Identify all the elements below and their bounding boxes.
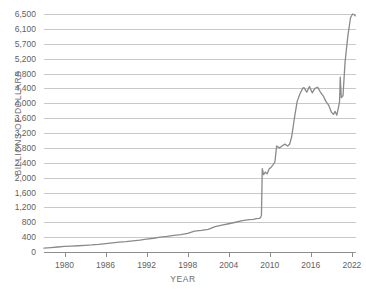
x-tick-label-2016: 2016	[301, 260, 320, 270]
x-tick-label-1998: 1998	[178, 260, 197, 270]
x-tick-1998	[188, 252, 189, 257]
x-tick-label-2022: 2022	[342, 260, 361, 270]
x-tick-label-1980: 1980	[55, 260, 74, 270]
y-tick-label-4400: 4,400	[0, 83, 36, 93]
x-tick-2004	[229, 252, 230, 257]
y-tick-label-400: 400	[0, 232, 36, 242]
plot-area: 04008001,2001,6002,0002,4002,8003,2003,6…	[44, 14, 356, 252]
x-tick-1980	[65, 252, 66, 257]
series-path-total-assets	[44, 14, 355, 248]
y-tick-label-3200: 3,200	[0, 128, 36, 138]
y-tick-label-0: 0	[0, 247, 36, 257]
chart-container: BILLIONS OF DOLLARS 04008001,2001,6002,0…	[0, 0, 366, 292]
y-tick-label-800: 800	[0, 217, 36, 227]
x-tick-label-2004: 2004	[219, 260, 238, 270]
x-tick-2010	[270, 252, 271, 257]
x-tick-2016	[311, 252, 312, 257]
y-tick-label-4000: 4,000	[0, 98, 36, 108]
y-tick-label-2400: 2,400	[0, 158, 36, 168]
y-tick-label-4800: 4,800	[0, 69, 36, 79]
x-tick-1986	[106, 252, 107, 257]
x-tick-label-1986: 1986	[96, 260, 115, 270]
x-axis-line	[44, 252, 352, 253]
y-tick-label-6100: 6,100	[0, 24, 36, 34]
x-tick-1992	[147, 252, 148, 257]
y-tick-label-5700: 5,700	[0, 39, 36, 49]
y-tick-label-6500: 6,500	[0, 9, 36, 19]
x-axis-title: YEAR	[0, 274, 366, 284]
y-tick-label-5200: 5,200	[0, 54, 36, 64]
y-tick-label-2800: 2,800	[0, 143, 36, 153]
y-tick-label-1200: 1,200	[0, 202, 36, 212]
y-tick-label-2000: 2,000	[0, 173, 36, 183]
x-tick-2022	[352, 252, 353, 257]
y-tick-label-3600: 3,600	[0, 113, 36, 123]
y-tick-label-1600: 1,600	[0, 188, 36, 198]
data-line-total-assets	[44, 14, 356, 252]
x-tick-label-1992: 1992	[137, 260, 156, 270]
x-tick-label-2010: 2010	[260, 260, 279, 270]
